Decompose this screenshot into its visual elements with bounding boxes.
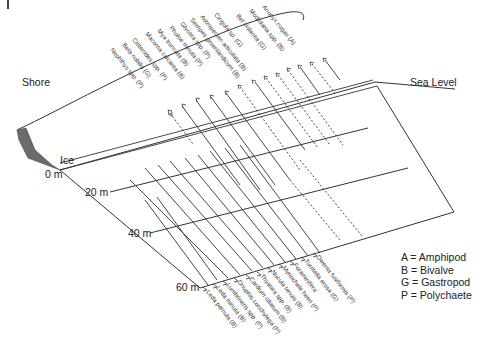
ice-label: Ice	[60, 154, 74, 166]
ice-line-bottom	[60, 86, 377, 170]
depth-label-40: 40 m	[128, 227, 152, 239]
depth-label-60: 60 m	[176, 281, 200, 293]
depth-label-20: 20 m	[85, 186, 109, 198]
legend-item-bivalve: B = Bivalve	[401, 264, 472, 277]
depth-line-40m	[150, 168, 408, 233]
shore-rock	[17, 128, 60, 170]
shore-label: Shore	[22, 76, 50, 88]
legend: A = Amphipod B = Bivalve G = Gastropod P…	[401, 251, 472, 301]
slope-right-edge	[377, 86, 454, 212]
shallow-species-labels: Nephthys spp. (P) Bela nobilis (G) Ciste…	[109, 3, 297, 89]
sea-level-label: Sea Level	[410, 76, 457, 88]
legend-item-polychaete: P = Polychaete	[401, 289, 472, 302]
depth-label-0: 0 m	[45, 168, 63, 180]
legend-item-gastropod: G = Gastropod	[401, 276, 472, 289]
legend-item-amphipod: A = Amphipod	[401, 251, 472, 264]
sea-level-line	[60, 82, 455, 170]
